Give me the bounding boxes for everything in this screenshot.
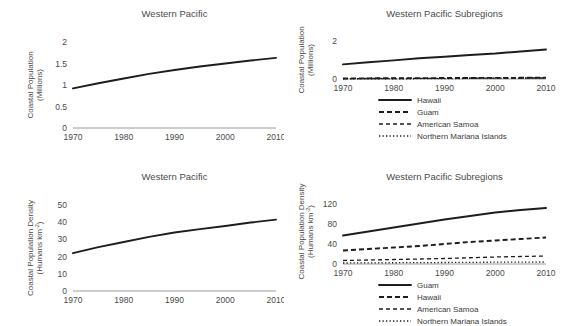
x-axis-tick-label: 1990 <box>165 295 184 305</box>
y-axis-label-line2: (Humans km-2) <box>34 221 44 274</box>
y-axis-label-line1: Coastal Population Density <box>297 183 306 279</box>
y-axis-tick-label: 40 <box>58 217 68 227</box>
y-axis-tick-label: 80 <box>328 219 338 229</box>
series-line-western-pacific <box>73 220 276 254</box>
legend-label-hawaii: Hawaii <box>417 293 441 302</box>
x-axis-tick-label: 1990 <box>165 132 184 142</box>
series-line-northern-mariana-islands <box>343 262 546 263</box>
y-axis-tick-label: 0.5 <box>55 102 67 112</box>
chart-panel-top-left: Western Pacific00.511.521970198019902000… <box>0 0 284 163</box>
x-axis-tick-label: 1970 <box>334 83 353 93</box>
x-axis-tick-label: 2010 <box>267 132 284 142</box>
x-axis-tick-label: 2010 <box>537 268 556 278</box>
chart-top-left: Western Pacific00.511.521970198019902000… <box>0 0 284 163</box>
y-axis-tick-label: 2 <box>332 36 337 46</box>
y-axis-label-line1: Coastal Population <box>26 51 35 118</box>
y-axis-label-line2: (Millions) <box>35 69 44 101</box>
chart-bottom-left: Western Pacific0102030405019701980199020… <box>0 163 284 326</box>
y-axis-label-line2: (Millions) <box>306 44 315 76</box>
x-axis-tick-label: 1970 <box>64 132 83 142</box>
legend-label-guam: Guam <box>417 281 439 290</box>
x-axis-tick-label: 1980 <box>384 268 403 278</box>
legend-label-northern-mariana-islands: Northern Mariana Islands <box>417 132 507 141</box>
y-axis-tick-label: 2 <box>62 37 67 47</box>
y-axis-tick-label: 30 <box>58 234 68 244</box>
x-axis-tick-label: 1970 <box>334 268 353 278</box>
x-axis-tick-label: 2000 <box>486 83 505 93</box>
x-axis-tick-label: 2000 <box>216 132 235 142</box>
x-axis-tick-label: 2000 <box>486 268 505 278</box>
legend-label-american-samoa: American Samoa <box>417 305 479 314</box>
y-axis-tick-label: 120 <box>323 199 337 209</box>
series-line-hawaii <box>343 50 546 65</box>
chart-title: Western Pacific Subregions <box>386 8 503 19</box>
chart-title: Western Pacific <box>142 171 208 182</box>
chart-panel-bottom-left: Western Pacific0102030405019701980199020… <box>0 163 284 326</box>
legend-label-american-samoa: American Samoa <box>417 120 479 129</box>
y-axis-tick-label: 40 <box>328 239 338 249</box>
x-axis-tick-label: 1980 <box>384 83 403 93</box>
y-axis-tick-label: 1 <box>62 80 67 90</box>
x-axis-tick-label: 2010 <box>537 83 556 93</box>
legend-label-northern-mariana-islands: Northern Mariana Islands <box>417 317 507 326</box>
chart-title: Western Pacific Subregions <box>386 171 503 182</box>
series-line-guam <box>343 208 546 236</box>
y-axis-tick-label: 10 <box>58 269 68 279</box>
x-axis-tick-label: 1980 <box>114 295 133 305</box>
y-axis-tick-label: 1.5 <box>55 59 67 69</box>
figure-multi-panel-line-charts: Western Pacific00.511.521970198019902000… <box>0 0 568 326</box>
x-axis-tick-label: 2000 <box>216 295 235 305</box>
y-axis-label-line2: (Humans km-2) <box>305 205 315 258</box>
series-line-western-pacific <box>73 58 276 89</box>
chart-title: Western Pacific <box>142 8 208 19</box>
series-line-american-samoa <box>343 256 546 261</box>
chart-top-right: Western Pacific Subregions02197019801990… <box>284 0 568 163</box>
x-axis-tick-label: 1980 <box>114 132 133 142</box>
chart-panel-top-right: Western Pacific Subregions02197019801990… <box>284 0 568 163</box>
legend-label-hawaii: Hawaii <box>417 96 441 105</box>
y-axis-tick-label: 50 <box>58 200 68 210</box>
x-axis-tick-label: 1990 <box>435 83 454 93</box>
x-axis-tick-label: 1990 <box>435 268 454 278</box>
chart-bottom-right: Western Pacific Subregions04080120197019… <box>284 163 568 326</box>
y-axis-label-line1: Coastal Population <box>297 26 306 93</box>
x-axis-tick-label: 1970 <box>64 295 83 305</box>
y-axis-label-line1: Coastal Population Density <box>26 200 35 296</box>
series-line-hawaii <box>343 238 546 251</box>
y-axis-tick-label: 20 <box>58 252 68 262</box>
chart-panel-bottom-right: Western Pacific Subregions04080120197019… <box>284 163 568 326</box>
legend-label-guam: Guam <box>417 108 439 117</box>
x-axis-tick-label: 2010 <box>267 295 284 305</box>
